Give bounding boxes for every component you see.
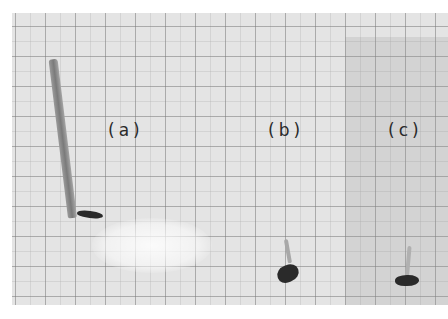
seedling-a-shoot [49,59,77,219]
seedling-b-shoot [284,239,292,263]
seedling-b-seed [275,262,301,285]
seedling-photo: (a) (b) (c) [12,13,448,305]
seedling-c-seed [395,275,419,286]
wet-paper-patch [92,218,212,273]
panel-label-a: (a) [108,120,144,140]
panel-label-b: (b) [268,120,304,140]
panel-label-c: (c) [388,120,423,140]
panel-c-background [345,37,448,305]
seedling-a-seed [77,209,104,220]
